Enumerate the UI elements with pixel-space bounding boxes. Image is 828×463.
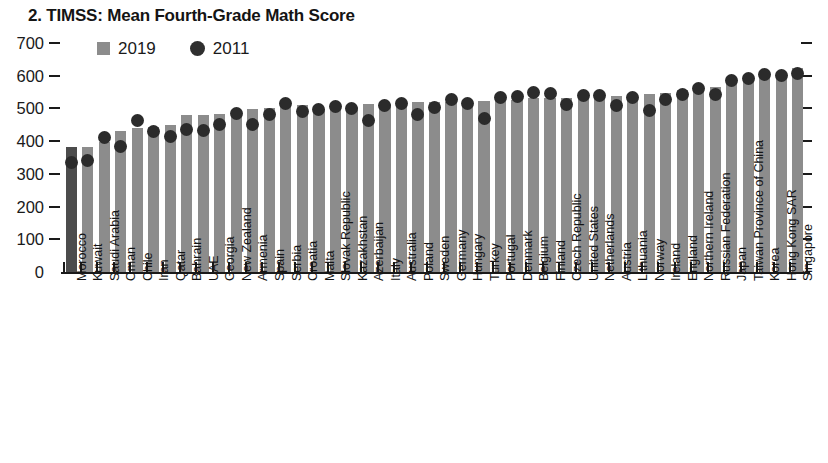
dot-hong-kong-sar: [775, 69, 788, 82]
x-axis-label: Croatia: [307, 241, 320, 281]
x-axis-label: Oman: [125, 247, 138, 281]
x-axis-label: Hong Kong SAR: [786, 189, 799, 281]
y-tick-mark: [49, 140, 60, 142]
y-tick-mark: [49, 173, 60, 175]
y-tick-mark: [49, 75, 60, 77]
y-tick-label: 200: [2, 198, 44, 215]
dot-uae: [197, 124, 210, 137]
dot-northern-ireland: [692, 82, 705, 95]
y-tick-label: 300: [2, 166, 44, 183]
dot-chile: [131, 114, 144, 127]
x-axis-label: Russian Federation: [720, 173, 733, 281]
x-axis-label: Netherlands: [604, 214, 617, 281]
y-axis-labels: 0100200300400500600700: [0, 0, 44, 463]
x-axis-label: Finland: [555, 240, 568, 281]
dot-lithuania: [626, 91, 639, 104]
dot-croatia: [296, 105, 309, 118]
dot-oman: [114, 140, 127, 153]
dot-denmark: [511, 90, 524, 103]
x-axis-label: Norway: [654, 239, 667, 281]
x-axis-label: Morocco: [76, 233, 89, 281]
dot-kazakhstan: [345, 102, 358, 115]
dot-turkey: [478, 112, 491, 125]
x-axis-label: Lithuania: [637, 230, 650, 281]
x-axis-label: Austria: [621, 242, 634, 281]
dot-new-zealand: [230, 107, 243, 120]
dot-austria: [610, 99, 623, 112]
x-axis-label: Australia: [406, 232, 419, 281]
dot-morocco: [65, 156, 78, 169]
dot-taiwan-province-of-china: [742, 72, 755, 85]
x-axis-label: Ireland: [670, 243, 683, 281]
dot-belgium: [527, 86, 540, 99]
dot-russian-federation: [709, 88, 722, 101]
x-axis-label: New Zealand: [241, 207, 254, 281]
dot-australia: [395, 97, 408, 110]
dot-armenia: [246, 118, 259, 131]
dot-spain: [263, 108, 276, 121]
y-tick-label: 100: [2, 231, 44, 248]
x-axis-label: Slovak Republic: [340, 191, 353, 281]
dot-sweden: [428, 101, 441, 114]
x-axis-label: Poland: [423, 242, 436, 281]
x-axis-label: Azerbaijan: [373, 222, 386, 281]
dot-germany: [445, 93, 458, 106]
dot-finland: [544, 87, 557, 100]
x-axis-label: England: [687, 235, 700, 281]
dot-united-states: [577, 89, 590, 102]
x-axis-label: Hungary: [472, 234, 485, 281]
dot-kuwait: [81, 154, 94, 167]
x-axis-label: Northern Ireland: [703, 191, 716, 281]
x-axis-label: Italy: [390, 258, 403, 281]
x-axis-label: Serbia: [291, 245, 304, 281]
y-tick-mark: [49, 238, 60, 240]
x-axis-label: Turkey: [489, 243, 502, 281]
x-axis-label: Korea: [769, 248, 782, 281]
x-axis-label: Taiwan Province of China: [753, 140, 766, 281]
x-axis-label: UAE: [208, 255, 221, 281]
x-axis-label: Denmark: [522, 230, 535, 281]
x-axis-label: Czech Republic: [571, 193, 584, 281]
x-axis-label: Chile: [142, 253, 155, 282]
dot-azerbaijan: [362, 114, 375, 127]
dot-norway: [643, 104, 656, 117]
dot-iran: [147, 125, 160, 138]
chart-title: 2. TIMSS: Mean Fourth-Grade Math Score: [28, 6, 355, 26]
x-axis-label: Armenia: [257, 234, 270, 281]
dot-netherlands: [593, 89, 606, 102]
y-tick-mark: [49, 206, 60, 208]
x-axis-label: Spain: [274, 249, 287, 281]
x-axis-label: Japan: [736, 247, 749, 281]
x-axis-label: Germany: [456, 230, 469, 281]
x-axis-label: Bahrain: [191, 238, 204, 281]
x-axis-label: Kazakhstan: [357, 216, 370, 281]
x-axis-label: Saudi Arabia: [109, 210, 122, 281]
bar-iran: [148, 127, 159, 272]
y-tick-label: 0: [2, 264, 44, 281]
x-axis-label: Portugal: [505, 234, 518, 281]
x-axis-label: Qatar: [175, 250, 188, 281]
x-axis-label: Malta: [324, 250, 337, 281]
x-tick-mark: [63, 262, 65, 273]
dot-korea: [758, 68, 771, 81]
dot-slovak-republic: [329, 100, 342, 113]
y-tick-label: 500: [2, 100, 44, 117]
x-axis-label: Kuwait: [92, 243, 105, 281]
y-tick-mark: [49, 107, 60, 109]
y-tick-label: 600: [2, 67, 44, 84]
dot-england: [676, 88, 689, 101]
x-axis-label: United States: [588, 206, 601, 281]
x-axis-label: Sweden: [439, 236, 452, 281]
chart-figure: 2. TIMSS: Mean Fourth-Grade Math Score 2…: [0, 0, 828, 463]
dot-hungary: [461, 97, 474, 110]
y-tick-label: 400: [2, 133, 44, 150]
y-tick-label: 700: [2, 35, 44, 52]
x-axis-label: Belgium: [538, 236, 551, 281]
x-axis-label: Georgia: [224, 237, 237, 281]
y-tick-mark: [49, 42, 60, 44]
x-axis-label: Singapore: [802, 224, 815, 281]
x-axis-label: Iran: [158, 259, 171, 281]
